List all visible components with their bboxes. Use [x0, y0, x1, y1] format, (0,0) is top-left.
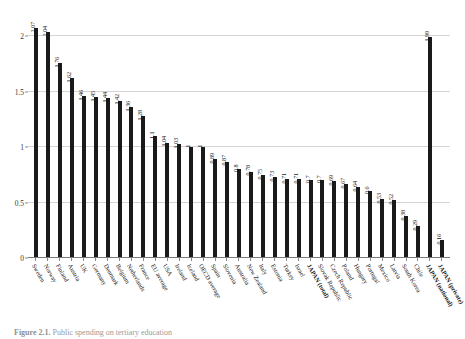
- bar[interactable]: 1.04: [165, 143, 169, 258]
- bar[interactable]: 0.64: [356, 187, 360, 258]
- bar-slot: 0.69: [328, 14, 340, 258]
- bar[interactable]: 2.04: [46, 32, 50, 258]
- y-axis-tick-label: 1: [20, 143, 24, 152]
- x-axis-label-slot: Mexico: [376, 262, 388, 322]
- bar-value-label: 1: [185, 145, 191, 148]
- x-axis-label-slot: Poland: [340, 262, 352, 322]
- bar[interactable]: 1.36: [129, 107, 133, 258]
- x-axis-label-slot: JAPAN (private): [436, 262, 448, 322]
- x-axis-label-slot: Chile: [412, 262, 424, 322]
- x-axis-label-slot: Netherlands: [126, 262, 138, 322]
- bar[interactable]: 0.73: [273, 177, 277, 258]
- bar[interactable]: 1.76: [58, 63, 62, 258]
- bar-value-label: 1.42: [113, 94, 119, 105]
- x-axis-tick-mark: [215, 258, 216, 261]
- bar[interactable]: 0.16: [440, 240, 444, 258]
- x-axis-label: UK: [78, 263, 88, 274]
- x-axis-tick-mark: [406, 258, 407, 261]
- bar-slot: 1.99: [424, 14, 436, 258]
- x-axis-tick-mark: [382, 258, 383, 261]
- x-axis-label-slot: Ireland: [173, 262, 185, 322]
- bar-value-label: 0.29: [412, 219, 418, 230]
- x-axis-tick-mark: [191, 258, 192, 261]
- bar-slot: 0.6: [364, 14, 376, 258]
- bar[interactable]: 1.45: [94, 97, 98, 258]
- bar[interactable]: 1.99: [428, 37, 432, 258]
- x-axis-tick-mark: [59, 258, 60, 261]
- bar-value-label: 0.64: [352, 181, 358, 192]
- bar[interactable]: 0.78: [249, 172, 253, 259]
- bar-slot: 1.44: [102, 14, 114, 258]
- bar[interactable]: 1.42: [118, 101, 122, 258]
- x-axis-tick-mark: [47, 258, 48, 261]
- x-axis-tick-mark: [310, 258, 311, 261]
- bar-slot: 1: [185, 14, 197, 258]
- bar[interactable]: 0.7: [320, 180, 324, 258]
- bar-value-label: 0.16: [436, 234, 442, 245]
- x-axis-tick-mark: [358, 258, 359, 261]
- bar[interactable]: 1: [189, 147, 193, 258]
- bar-value-label: 0.6: [364, 187, 370, 195]
- x-axis-label: USA: [162, 263, 174, 277]
- bar[interactable]: 0.29: [416, 226, 420, 258]
- bar[interactable]: 0.69: [332, 181, 336, 258]
- bar-value-label: 0.71: [280, 173, 286, 184]
- bar-slot: 2.07: [30, 14, 42, 258]
- x-axis-tick-mark: [394, 258, 395, 261]
- bar[interactable]: 1.1: [153, 136, 157, 258]
- bar-value-label: 0.73: [269, 171, 275, 182]
- bar-value-label: 0.75: [257, 168, 263, 179]
- bar[interactable]: 1.44: [106, 98, 110, 258]
- bar[interactable]: 0.75: [261, 175, 265, 258]
- bar[interactable]: 0.87: [225, 162, 229, 258]
- bar[interactable]: 0.52: [392, 200, 396, 258]
- bar[interactable]: 0.71: [297, 179, 301, 258]
- caption-label: Figure 2.1.: [14, 328, 51, 337]
- x-axis-label-slot: Latvia: [388, 262, 400, 322]
- x-axis-tick-mark: [346, 258, 347, 261]
- x-axis-tick-mark: [35, 258, 36, 261]
- bar-slot: 1.36: [126, 14, 138, 258]
- bar-slot: 1.46: [78, 14, 90, 258]
- x-axis-tick-mark: [274, 258, 275, 261]
- x-axis-tick-mark: [143, 258, 144, 261]
- bar[interactable]: 0.67: [344, 184, 348, 258]
- x-axis-tick-mark: [417, 258, 418, 261]
- x-axis-label-slot: Norway: [42, 262, 54, 322]
- bar[interactable]: 1.62: [70, 78, 74, 258]
- x-axis-label-slot: Hungary: [352, 262, 364, 322]
- bar-slot: 1.62: [66, 14, 78, 258]
- x-axis-tick-mark: [155, 258, 156, 261]
- bar-value-label: 2.07: [30, 22, 36, 33]
- bar[interactable]: 0.7: [309, 180, 313, 258]
- bar[interactable]: 0.8: [237, 169, 241, 258]
- x-axis-label-slot: OECD average: [197, 262, 209, 322]
- bar[interactable]: 0.38: [404, 216, 408, 258]
- bar-slot: 0.71: [281, 14, 293, 258]
- bar[interactable]: 0.53: [380, 199, 384, 258]
- x-axis-label-slot: Belgium: [114, 262, 126, 322]
- bar[interactable]: 0.89: [213, 159, 217, 258]
- x-axis-label-slot: Denmark: [102, 262, 114, 322]
- plot-area: 2.072.041.761.621.461.451.441.421.361.28…: [28, 14, 450, 258]
- bar-value-label: 0.69: [328, 175, 334, 186]
- bar[interactable]: 1.28: [141, 116, 145, 258]
- x-axis-label-slot: Israel: [293, 262, 305, 322]
- bar-slot: 2.04: [42, 14, 54, 258]
- figure-caption: Figure 2.1. Public spending on tertiary …: [14, 327, 444, 338]
- bar[interactable]: 1.03: [177, 144, 181, 258]
- bar[interactable]: 1: [201, 147, 205, 258]
- x-axis-tick-mark: [203, 258, 204, 261]
- x-axis-tick-mark: [298, 258, 299, 261]
- bar[interactable]: 0.6: [368, 191, 372, 258]
- bar-slot: 0.67: [340, 14, 352, 258]
- bar[interactable]: 1.46: [82, 96, 86, 258]
- bar[interactable]: 2.07: [34, 28, 38, 258]
- bar[interactable]: 0.71: [285, 179, 289, 258]
- x-axis-tick-mark: [286, 258, 287, 261]
- bar-value-label: 0.89: [209, 153, 215, 164]
- x-axis-label-slot: Turkey: [281, 262, 293, 322]
- x-axis-label-slot: Australia: [233, 262, 245, 322]
- bar-value-label: 1.44: [101, 92, 107, 103]
- bar-slot: 0.8: [233, 14, 245, 258]
